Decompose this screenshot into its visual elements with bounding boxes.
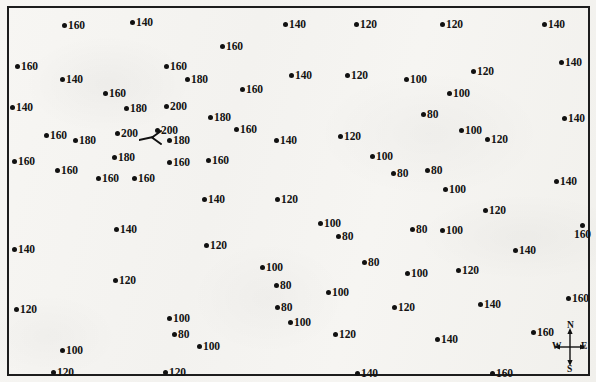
data-point-dot-icon	[478, 302, 483, 307]
data-point-value-label: 200	[121, 128, 138, 140]
data-point: 80	[421, 105, 438, 121]
data-point-dot-icon	[167, 316, 172, 321]
data-point-value-label: 180	[214, 112, 231, 124]
data-point: 160	[206, 151, 229, 167]
data-point-value-label: 100	[410, 74, 427, 86]
data-point-value-label: 120	[20, 304, 37, 316]
data-point-dot-icon	[73, 138, 78, 143]
data-point: 120	[345, 66, 368, 82]
data-point-value-label: 160	[102, 173, 119, 185]
data-point-dot-icon	[164, 64, 169, 69]
data-point: 80	[425, 161, 442, 177]
data-point-value-label: 180	[191, 74, 208, 86]
data-point-value-label: 160	[18, 156, 35, 168]
data-point-dot-icon	[318, 221, 323, 226]
data-point: 140	[478, 295, 501, 311]
data-point-dot-icon	[554, 179, 559, 184]
data-point-value-label: 140	[66, 74, 83, 86]
data-point: 140	[542, 15, 565, 31]
data-point-dot-icon	[60, 77, 65, 82]
data-point: 160	[234, 120, 257, 136]
data-point-value-label: 80	[280, 280, 291, 292]
data-point-dot-icon	[62, 23, 67, 28]
data-point: 160	[566, 289, 589, 305]
data-point-dot-icon	[562, 116, 567, 121]
data-point-value-label: 140	[295, 70, 312, 82]
data-point-dot-icon	[566, 296, 571, 301]
data-point: 140	[60, 70, 83, 86]
data-point-value-label: 100	[173, 313, 190, 325]
data-point: 160	[531, 323, 554, 339]
data-point-value-label: 160	[138, 173, 155, 185]
data-point-dot-icon	[421, 112, 426, 117]
data-point: 100	[405, 264, 428, 280]
data-point-dot-icon	[10, 105, 15, 110]
data-point: 140	[559, 53, 582, 69]
data-point-value-label: 140	[519, 245, 536, 257]
data-point-value-label: 80	[397, 168, 408, 180]
data-point-dot-icon	[354, 22, 359, 27]
data-point-value-label: 140	[565, 57, 582, 69]
data-point-dot-icon	[204, 243, 209, 248]
data-point-value-label: 80	[342, 231, 353, 243]
data-point: 120	[51, 363, 74, 379]
data-point: 160	[55, 161, 78, 177]
data-point-value-label: 140	[289, 19, 306, 31]
data-point-value-label: 160	[109, 88, 126, 100]
data-point-dot-icon	[355, 371, 360, 376]
data-point: 180	[167, 131, 190, 147]
data-point-dot-icon	[345, 73, 350, 78]
data-point-dot-icon	[130, 20, 135, 25]
data-point-value-label: 140	[280, 135, 297, 147]
data-point: 140	[130, 13, 153, 29]
data-point-value-label: 160	[496, 368, 513, 380]
data-point-dot-icon	[456, 268, 461, 273]
data-point-value-label: 100	[332, 287, 349, 299]
data-point-value-label: 120	[477, 66, 494, 78]
data-point-dot-icon	[220, 44, 225, 49]
data-point: 100	[288, 313, 311, 329]
data-point: 120	[471, 62, 494, 78]
data-point-value-label: 140	[16, 102, 33, 114]
data-point-dot-icon	[12, 247, 17, 252]
data-point-value-label: 160	[574, 229, 591, 241]
data-point-dot-icon	[490, 371, 495, 376]
data-point-dot-icon	[440, 22, 445, 27]
data-point-value-label: 100	[446, 225, 463, 237]
data-point: 120	[204, 236, 227, 252]
data-point: 140	[202, 190, 225, 206]
data-point-value-label: 160	[173, 157, 190, 169]
data-point-value-label: 180	[79, 135, 96, 147]
data-point-value-label: 140	[484, 299, 501, 311]
data-point-value-label: 180	[130, 103, 147, 115]
data-point-value-label: 120	[351, 70, 368, 82]
data-point-dot-icon	[234, 127, 239, 132]
data-point: 180	[185, 70, 208, 86]
compass-north-label: N	[567, 320, 574, 330]
data-point-dot-icon	[531, 330, 536, 335]
data-point-dot-icon	[44, 133, 49, 138]
data-point: 140	[435, 330, 458, 346]
data-point-value-label: 140	[361, 368, 378, 380]
data-point: 180	[112, 148, 135, 164]
data-point-dot-icon	[164, 104, 169, 109]
data-point: 120	[392, 298, 415, 314]
data-point-dot-icon	[240, 87, 245, 92]
data-point: 180	[124, 99, 147, 115]
data-point-dot-icon	[275, 305, 280, 310]
data-point: 160	[574, 223, 591, 241]
data-point-dot-icon	[289, 73, 294, 78]
data-point-value-label: 140	[560, 176, 577, 188]
data-point-value-label: 180	[173, 135, 190, 147]
data-point-value-label: 160	[572, 293, 589, 305]
data-point: 160	[62, 16, 85, 32]
data-point-value-label: 160	[226, 41, 243, 53]
data-point-dot-icon	[326, 290, 331, 295]
data-point-dot-icon	[124, 106, 129, 111]
data-point-value-label: 100	[411, 268, 428, 280]
data-point-dot-icon	[260, 265, 265, 270]
data-point: 180	[208, 108, 231, 124]
data-point-value-label: 120	[344, 131, 361, 143]
data-point-value-label: 140	[208, 194, 225, 206]
data-point-value-label: 180	[118, 152, 135, 164]
